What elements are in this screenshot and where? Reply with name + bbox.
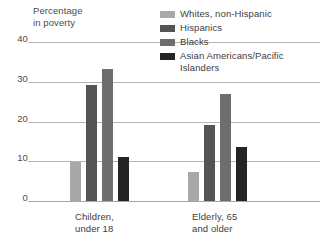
poverty-bar-chart: Percentage in poverty 40 30 20 10 0 Whit…	[0, 0, 327, 243]
gridline-baseline-0	[28, 201, 320, 202]
gridline-20	[28, 122, 320, 123]
bar-children-whites-non-hispanic	[70, 162, 81, 201]
legend-swatch-whites-non-hispanic	[160, 11, 175, 18]
y-tick-label-40: 40	[6, 33, 28, 44]
x-category-label-children: Children, under 18	[75, 211, 114, 234]
legend-item-asian-americans-pacific-islanders: Asian Americans/Pacific Islanders	[160, 50, 284, 74]
bar-elderly-blacks	[220, 94, 231, 201]
legend-swatch-hispanics	[160, 25, 175, 32]
bar-elderly-hispanics	[204, 125, 215, 201]
y-tick-label-20: 20	[6, 113, 28, 124]
y-axis-title: Percentage in poverty	[33, 5, 83, 28]
y-tick-label-0: 0	[6, 192, 28, 203]
bar-children-hispanics	[86, 85, 97, 201]
legend-swatch-asian-americans-pacific-islanders	[160, 53, 175, 60]
bar-children-asian-americans-pacific-islanders	[118, 157, 129, 201]
y-tick-label-30: 30	[6, 73, 28, 84]
legend-label-blacks: Blacks	[180, 36, 209, 48]
legend-swatch-blacks	[160, 39, 175, 46]
x-category-label-elderly: Elderly, 65 and older	[192, 211, 237, 234]
chart-legend: Whites, non-Hispanic Hispanics Blacks As…	[160, 8, 284, 76]
legend-label-asian-americans-pacific-islanders: Asian Americans/Pacific Islanders	[180, 50, 284, 73]
bar-children-blacks	[102, 69, 113, 201]
legend-label-hispanics: Hispanics	[180, 22, 222, 34]
legend-item-hispanics: Hispanics	[160, 22, 284, 34]
legend-label-whites-non-hispanic: Whites, non-Hispanic	[180, 8, 272, 20]
legend-item-whites-non-hispanic: Whites, non-Hispanic	[160, 8, 284, 20]
legend-item-blacks: Blacks	[160, 36, 284, 48]
bar-elderly-asian-americans-pacific-islanders	[236, 147, 247, 201]
y-tick-label-10: 10	[6, 152, 28, 163]
bar-elderly-whites-non-hispanic	[188, 172, 199, 201]
gridline-30	[28, 82, 320, 83]
